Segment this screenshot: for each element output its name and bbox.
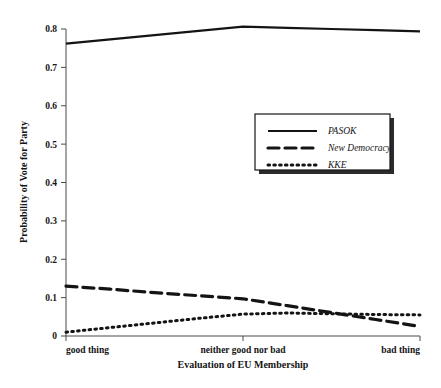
series-line-kke (66, 313, 420, 332)
y-axis-title: Probability of Vote for Party (18, 121, 29, 243)
series-line-pasok (66, 27, 420, 44)
line-chart-canvas: 00.10.20.30.40.50.60.70.8 good thingneit… (0, 0, 441, 388)
legend-label-pasok: PASOK (327, 126, 357, 136)
legend-label-new-democracy: New Democracy (327, 143, 392, 153)
y-tick-label: 0.3 (45, 216, 57, 226)
y-axis-ticks: 00.10.20.30.40.50.60.70.8 (45, 24, 66, 341)
x-category-label: neither good nor bad (201, 345, 287, 355)
y-tick-label: 0 (52, 331, 57, 341)
y-tick-label: 0.1 (45, 293, 57, 303)
y-tick-label: 0.4 (45, 178, 57, 188)
x-axis-ticks (66, 336, 420, 341)
series-line-new-democracy (66, 286, 420, 326)
x-category-label: good thing (66, 345, 109, 355)
legend-label-kke: KKE (327, 160, 347, 170)
y-tick-label: 0.6 (45, 101, 57, 111)
chart-legend[interactable]: PASOKNew DemocracyKKE (255, 114, 394, 174)
legend-background (255, 114, 390, 170)
chart-figure: 00.10.20.30.40.50.60.70.8 good thingneit… (0, 0, 441, 388)
x-axis-title: Evaluation of EU Membership (178, 359, 309, 370)
category-labels: good thingneither good nor badbad thing (66, 345, 420, 355)
data-series-group (66, 27, 420, 332)
y-tick-label: 0.7 (45, 63, 57, 73)
y-tick-label: 0.2 (45, 255, 57, 265)
y-tick-label: 0.5 (45, 140, 57, 150)
x-category-label: bad thing (381, 345, 420, 355)
y-tick-label: 0.8 (45, 24, 57, 34)
